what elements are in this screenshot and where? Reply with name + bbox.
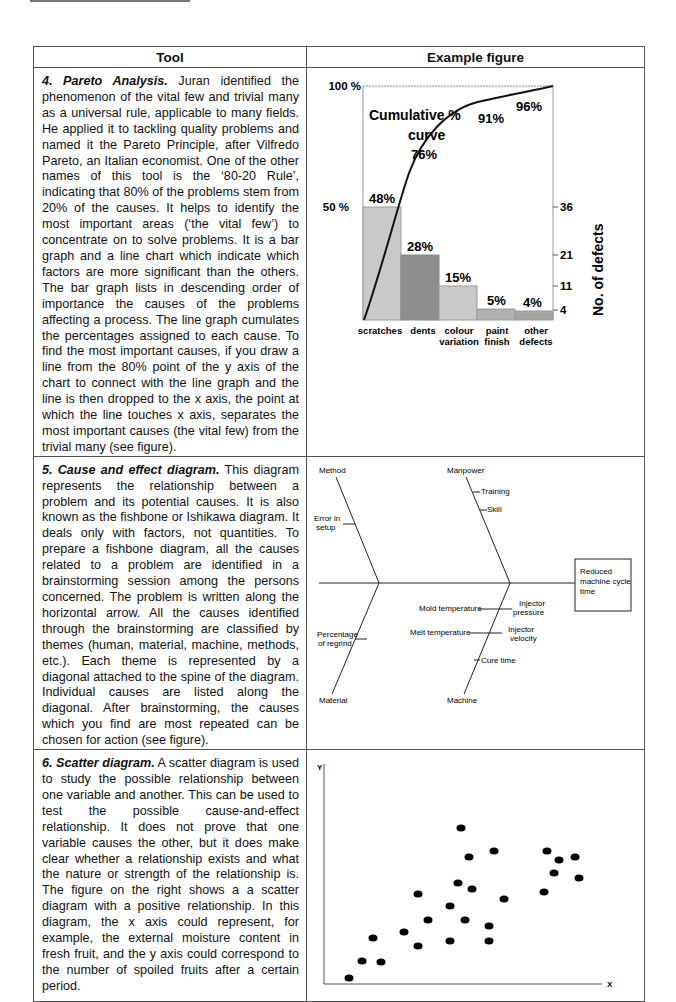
right-axis-label: No. of defects xyxy=(590,223,606,316)
curve-label-line2: curve xyxy=(408,127,446,143)
cause-error-line1: Error in xyxy=(314,514,340,523)
category-method: Method xyxy=(319,466,346,475)
bar-other-defects xyxy=(515,311,553,320)
bar-pct-dents: 28% xyxy=(407,239,433,254)
category-material: Material xyxy=(319,696,348,705)
fishbone-description: 5. Cause and effect diagram. This diagra… xyxy=(34,457,306,749)
category-manpower: Manpower xyxy=(447,466,485,475)
pareto-chart: 100 % 50 % 36 21 11 4 No. of defects Cum… xyxy=(307,68,644,456)
cause-injector-pressure-line1: Injector xyxy=(519,599,546,608)
cumulative-96: 96% xyxy=(516,99,542,114)
effect-line1: Reduced xyxy=(580,567,612,576)
scatter-diagram: Y X xyxy=(307,750,644,1001)
x-label-variation: variation xyxy=(439,336,479,347)
fishbone-diagram: Reduced machine cycle time Method Manpow… xyxy=(307,457,644,749)
bone-method xyxy=(336,477,379,583)
category-machine: Machine xyxy=(447,696,478,705)
fishbone-title: 5. Cause and effect diagram. xyxy=(42,463,219,477)
x-label-scratches: scratches xyxy=(358,325,402,336)
tool-description-cell: 5. Cause and effect diagram. This diagra… xyxy=(34,456,307,749)
header-example-figure: Example figure xyxy=(307,47,645,68)
right-tick-36: 36 xyxy=(560,201,573,213)
cause-injector-pressure-line2: pressure xyxy=(513,608,545,617)
scatter-points xyxy=(345,825,584,982)
left-tick-100: 100 % xyxy=(328,80,361,92)
x-label-defects: defects xyxy=(519,336,552,347)
x-label-other: other xyxy=(524,325,548,336)
curve-label-line1: Cumulative % xyxy=(369,107,461,123)
bar-pct-colour: 15% xyxy=(445,270,471,285)
cumulative-76: 76% xyxy=(411,147,437,162)
cause-regrind-line1: Percentage xyxy=(317,630,358,639)
effect-line2: machine cycle xyxy=(580,577,631,586)
bar-dents xyxy=(401,255,439,320)
table-header-row: Tool Example figure xyxy=(34,47,645,68)
cause-skill: Skill xyxy=(487,505,502,514)
scatter-description: 6. Scatter diagram. A scatter diagram is… xyxy=(34,750,306,995)
bar-pct-other: 4% xyxy=(523,295,542,310)
bar-colour-variation xyxy=(439,286,477,320)
tool-description-cell: 4. Pareto Analysis. Juran identified the… xyxy=(34,68,307,457)
pareto-title: 4. Pareto Analysis. xyxy=(42,74,168,88)
cumulative-91: 91% xyxy=(478,111,504,126)
cause-injector-velocity-line2: velocity xyxy=(510,634,537,643)
right-tick-21: 21 xyxy=(560,249,573,261)
bar-paint-finish xyxy=(477,309,515,320)
example-figure-cell: Y X xyxy=(307,750,645,1002)
cause-cure-time: Cure time xyxy=(481,656,516,665)
x-label-dents: dents xyxy=(410,325,435,336)
x-label-colour: colour xyxy=(444,325,473,336)
effect-line3: time xyxy=(580,587,596,596)
right-tick-4: 4 xyxy=(560,304,567,316)
example-figure-cell: Reduced machine cycle time Method Manpow… xyxy=(307,456,645,749)
scatter-body: A scatter diagram is used to study the p… xyxy=(42,756,299,993)
quality-tools-table: Tool Example figure 4. Pareto Analysis. … xyxy=(33,46,645,1002)
fishbone-body: This diagram represents the relationship… xyxy=(42,463,299,747)
cause-regrind-line2: of regrind xyxy=(318,639,352,648)
example-figure-cell: 100 % 50 % 36 21 11 4 No. of defects Cum… xyxy=(307,68,645,457)
left-tick-50: 50 % xyxy=(323,201,349,213)
table-row-scatter: 6. Scatter diagram. A scatter diagram is… xyxy=(34,750,645,1002)
scatter-title: 6. Scatter diagram. xyxy=(42,756,155,770)
table-row-pareto: 4. Pareto Analysis. Juran identified the… xyxy=(34,68,645,457)
bar-pct-paint: 5% xyxy=(487,293,506,308)
pareto-body: Juran identified the phenomenon of the v… xyxy=(42,74,299,454)
x-axis-label: X xyxy=(607,980,613,989)
header-tool: Tool xyxy=(34,47,307,68)
right-tick-11: 11 xyxy=(560,280,573,292)
cause-melt-temperature: Melt temperature xyxy=(410,628,471,637)
bar-pct-scratches: 48% xyxy=(369,191,395,206)
page-top-rule xyxy=(30,0,190,2)
bone-machine xyxy=(464,583,510,694)
pareto-description: 4. Pareto Analysis. Juran identified the… xyxy=(34,68,306,456)
x-label-finish: finish xyxy=(484,336,510,347)
y-axis-label: Y xyxy=(317,763,323,772)
cause-injector-velocity-line1: Injector xyxy=(508,625,535,634)
table-row-fishbone: 5. Cause and effect diagram. This diagra… xyxy=(34,456,645,749)
cause-training: Training xyxy=(481,487,510,496)
x-label-paint: paint xyxy=(486,325,510,336)
tool-description-cell: 6. Scatter diagram. A scatter diagram is… xyxy=(34,750,307,1002)
cause-error-line2: setup xyxy=(316,523,336,532)
cause-mold-temperature: Mold temperature xyxy=(419,604,482,613)
